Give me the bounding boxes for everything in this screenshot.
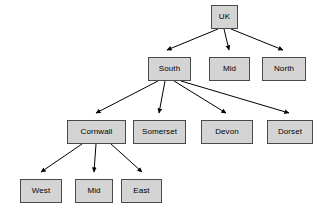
node-somerset[interactable]: Somerset xyxy=(133,120,186,144)
node-label-bmid: Mid xyxy=(87,187,100,195)
tree-diagram: UKSouthMidNorthCornwallSomersetDevonDors… xyxy=(0,0,321,213)
node-layer: UKSouthMidNorthCornwallSomersetDevonDors… xyxy=(0,0,321,213)
node-label-uk: UK xyxy=(219,13,230,21)
node-label-south: South xyxy=(159,65,180,73)
node-devon[interactable]: Devon xyxy=(201,120,253,144)
node-label-devon: Devon xyxy=(215,128,239,136)
node-uk[interactable]: UK xyxy=(211,5,238,29)
node-north[interactable]: North xyxy=(262,57,306,81)
node-label-north: North xyxy=(274,65,294,73)
node-east[interactable]: East xyxy=(121,179,162,203)
node-label-east: East xyxy=(133,187,149,195)
node-label-mid: Mid xyxy=(223,65,236,73)
node-south[interactable]: South xyxy=(148,57,191,81)
node-mid[interactable]: Mid xyxy=(209,57,250,81)
node-bmid[interactable]: Mid xyxy=(75,179,113,203)
node-label-dorset: Dorset xyxy=(278,128,302,136)
node-label-west: West xyxy=(32,187,50,195)
node-dorset[interactable]: Dorset xyxy=(267,120,313,144)
node-label-cornwall: Cornwall xyxy=(81,128,113,136)
node-cornwall[interactable]: Cornwall xyxy=(67,120,126,144)
node-west[interactable]: West xyxy=(20,179,62,203)
node-label-somerset: Somerset xyxy=(142,128,177,136)
